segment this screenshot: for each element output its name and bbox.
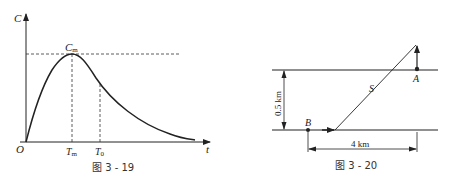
point-b-label: B [305, 117, 311, 128]
point-b-dot [306, 128, 310, 132]
figure-3-20: 0.5 km B S A 4 km 图 3 - 20 [272, 45, 438, 171]
path-s-label: S [369, 83, 374, 94]
tm-label: Tm [66, 146, 78, 158]
concentration-curve [26, 54, 195, 142]
figures-canvas: C t O Cm Tm T0 图 3 - 19 0.5 km B S [0, 0, 451, 188]
x-axis-label: t [206, 143, 210, 155]
vertical-dimension-label: 0.5 km [273, 91, 283, 116]
peak-label: Cm [65, 41, 78, 54]
origin-label: O [16, 143, 24, 155]
caption-3-20: 图 3 - 20 [335, 160, 377, 171]
point-a-dot [415, 67, 419, 71]
figure-3-19: C t O Cm Tm T0 图 3 - 19 [14, 12, 210, 173]
y-axis-label: C [14, 12, 22, 24]
caption-3-19: 图 3 - 19 [92, 162, 134, 173]
horizontal-dimension-label: 4 km [351, 139, 369, 149]
point-a-label: A [412, 73, 420, 84]
t0-label: T0 [95, 146, 105, 158]
diagonal-path-s [335, 45, 416, 130]
